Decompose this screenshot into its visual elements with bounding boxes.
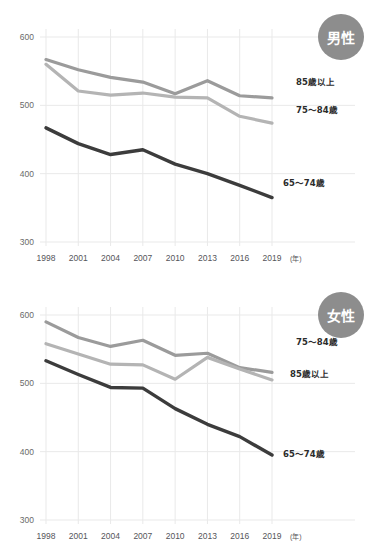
y-tick-label-400: 400 (20, 169, 34, 179)
x-tick-label-2013: 2013 (198, 253, 217, 263)
x-tick-label-2001: 2001 (69, 253, 88, 263)
y-tick-label-600: 600 (20, 32, 34, 42)
series-label-female-2: 65〜74歳 (283, 449, 325, 459)
y-tick-label-500: 500 (20, 100, 34, 110)
y-tick-label-600: 600 (20, 310, 34, 320)
x-tick-label-2016: 2016 (230, 531, 249, 541)
x-tick-label-2019: 2019 (263, 531, 282, 541)
x-tick-label-2004: 2004 (101, 531, 120, 541)
x-axis-unit: (年) (290, 254, 302, 263)
x-tick-label-2004: 2004 (101, 253, 120, 263)
series-label-female-0: 75〜84歳 (296, 337, 338, 347)
x-tick-label-2010: 2010 (166, 253, 185, 263)
series-label-female-1: 85歳以上 (290, 369, 329, 379)
badge-female: 女性 (318, 292, 364, 338)
chart-male: 3004005006001998200120042007201020132016… (0, 0, 375, 277)
x-tick-label-2007: 2007 (133, 253, 152, 263)
x-tick-label-2013: 2013 (198, 531, 217, 541)
x-tick-label-1998: 1998 (37, 531, 56, 541)
series-line-female-0 (46, 322, 272, 373)
series-label-male-0: 85歳以上 (296, 77, 335, 87)
y-tick-label-500: 500 (20, 378, 34, 388)
series-line-male-2 (46, 128, 272, 198)
chart-female: 3004005006001998200120042007201020132016… (0, 278, 375, 555)
y-tick-label-300: 300 (20, 515, 34, 525)
x-tick-label-1998: 1998 (37, 253, 56, 263)
badge-male: 男性 (318, 14, 364, 60)
x-tick-label-2010: 2010 (166, 531, 185, 541)
x-tick-label-2016: 2016 (230, 253, 249, 263)
y-tick-label-300: 300 (20, 237, 34, 247)
x-axis-unit: (年) (290, 532, 302, 541)
y-tick-label-400: 400 (20, 447, 34, 457)
series-line-female-2 (46, 361, 272, 455)
x-tick-label-2007: 2007 (133, 531, 152, 541)
x-tick-label-2019: 2019 (263, 253, 282, 263)
series-label-male-1: 75〜84歳 (296, 105, 338, 115)
chart-page: 3004005006001998200120042007201020132016… (0, 0, 375, 555)
series-label-male-2: 65〜74歳 (283, 178, 325, 188)
x-tick-label-2001: 2001 (69, 531, 88, 541)
